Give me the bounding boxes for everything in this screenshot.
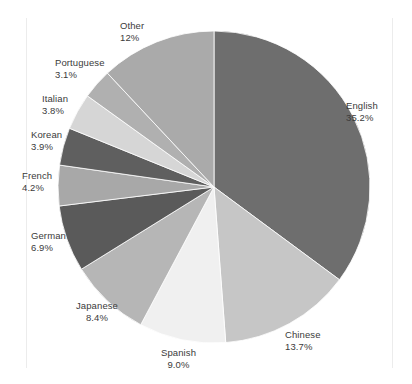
slice-label-french: French4.2% bbox=[22, 170, 52, 194]
slice-label-name-spanish: Spanish bbox=[161, 347, 196, 358]
slice-label-english: English35.2% bbox=[346, 100, 378, 124]
slice-label-pct-korean: 3.9% bbox=[31, 141, 62, 153]
slice-label-name-japanese: Japanese bbox=[76, 300, 118, 311]
slice-label-name-french: French bbox=[22, 170, 52, 181]
slice-label-name-chinese: Chinese bbox=[285, 329, 321, 340]
slice-label-pct-other: 12% bbox=[120, 32, 144, 44]
slice-label-other: Other12% bbox=[120, 20, 144, 44]
slice-label-name-portuguese: Portuguese bbox=[55, 57, 105, 68]
slice-label-japanese: Japanese8.4% bbox=[76, 300, 118, 324]
slice-label-name-italian: Italian bbox=[42, 93, 68, 104]
slice-label-pct-japanese: 8.4% bbox=[76, 312, 118, 324]
slice-label-pct-german: 6.9% bbox=[31, 242, 66, 254]
slice-label-italian: Italian3.8% bbox=[42, 93, 68, 117]
slice-label-pct-italian: 3.8% bbox=[42, 105, 68, 117]
slice-label-pct-english: 35.2% bbox=[346, 112, 378, 124]
slice-label-pct-spanish: 9.0% bbox=[161, 359, 196, 371]
slice-label-name-english: English bbox=[346, 100, 378, 111]
pie-chart-figure: English35.2%Chinese13.7%Spanish9.0%Japan… bbox=[0, 0, 412, 384]
slice-label-chinese: Chinese13.7% bbox=[285, 329, 321, 353]
slice-label-pct-french: 4.2% bbox=[22, 182, 52, 194]
slice-label-name-korean: Korean bbox=[31, 129, 62, 140]
slice-label-pct-portuguese: 3.1% bbox=[55, 69, 105, 81]
slice-label-pct-chinese: 13.7% bbox=[285, 341, 321, 353]
slice-label-name-other: Other bbox=[120, 20, 144, 31]
slice-label-name-german: German bbox=[31, 230, 66, 241]
slice-label-korean: Korean3.9% bbox=[31, 129, 62, 153]
slice-label-spanish: Spanish9.0% bbox=[161, 347, 196, 371]
slice-label-german: German6.9% bbox=[31, 230, 66, 254]
pie-slice-group bbox=[58, 31, 370, 343]
slice-label-portuguese: Portuguese3.1% bbox=[55, 57, 105, 81]
